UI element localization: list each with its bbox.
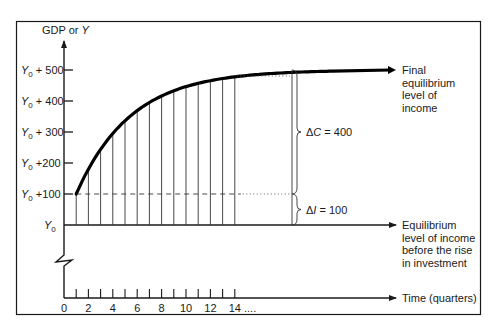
final-equilibrium-label: Final [402, 64, 426, 76]
delta-c-label: ΔC = 400 [306, 126, 352, 138]
y-tick-label: Y0 +200 [21, 157, 61, 172]
delta-i-brace [292, 194, 301, 225]
y-tick-label: Y0 +100 [21, 188, 61, 203]
x-tick-label: 10 [180, 302, 192, 314]
y-tick-label: Y0 + 400 [21, 95, 64, 110]
annotations: ΔC = 400ΔI = 100Finalequilibriumlevel of… [76, 64, 475, 269]
ticks: Y0Y0 +100Y0 +200Y0 + 300Y0 + 400Y0 + 500… [21, 64, 241, 314]
curve-arrow-icon [388, 66, 396, 74]
delta-i-label: ΔI = 100 [306, 204, 347, 216]
y-tick-label: Y0 + 300 [21, 126, 64, 141]
x-tick-label: 0 [61, 302, 67, 314]
initial-equilibrium-label: in investment [402, 257, 467, 269]
initial-equilibrium-label: Equilibrium [402, 219, 456, 231]
initial-equilibrium-label: level of income [402, 232, 475, 244]
x-continuation: .... [244, 302, 256, 314]
x-tick-label: 12 [204, 302, 216, 314]
axis-break-icon [56, 225, 72, 298]
x-tick-label: 14 [229, 302, 241, 314]
x-tick-label: 2 [85, 302, 91, 314]
delta-c-brace [292, 70, 301, 194]
y-tick-label: Y0 [44, 219, 56, 234]
y-tick-label: Y0 + 500 [21, 64, 64, 79]
initial-equilibrium-label: before the rise [402, 244, 472, 256]
x-tick-label: 8 [159, 302, 165, 314]
x-tick-label: 6 [134, 302, 140, 314]
final-equilibrium-label: income [402, 102, 437, 114]
x-tick-label: 4 [110, 302, 116, 314]
x-axis-label: Time (quarters) [402, 292, 477, 304]
final-equilibrium-label: level of [402, 89, 438, 101]
multiplier-chart: GDP or Y Y0Y0 +100Y0 +200Y0 + 300Y0 + 40… [0, 0, 492, 331]
final-equilibrium-label: equilibrium [402, 77, 455, 89]
y-axis-label: GDP or Y [42, 24, 90, 36]
